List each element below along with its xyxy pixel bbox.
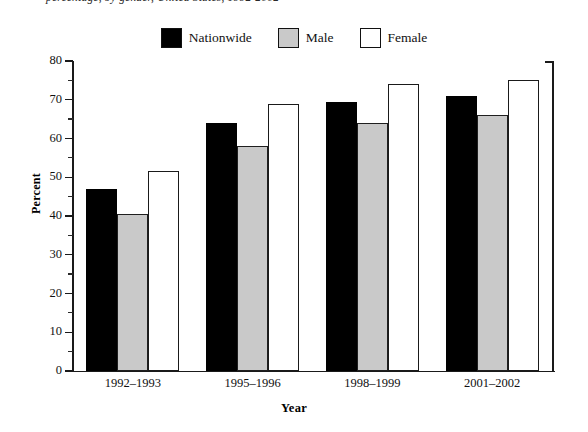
bar-female-0 (148, 171, 179, 371)
x-tick-label: 1992–1993 (73, 376, 193, 391)
bar-female-1 (268, 104, 299, 371)
y-tick-minor (68, 80, 73, 81)
y-tick-label: 50 (28, 169, 62, 183)
y-tick-minor (68, 157, 73, 158)
bar-nationwide-1 (206, 123, 237, 371)
y-tick-label: 70 (28, 92, 62, 106)
y-tick-minor (68, 312, 73, 313)
top-right-frame-segment (545, 61, 554, 63)
y-tick-label: 0 (28, 363, 62, 377)
y-tick-label: 40 (28, 208, 62, 222)
right-frame-line (552, 61, 554, 372)
bar-male-3 (477, 115, 508, 371)
x-tick-label: 2001–2002 (432, 376, 552, 391)
bar-nationwide-0 (86, 189, 117, 371)
bar-nationwide-3 (446, 96, 477, 371)
y-tick-major (65, 60, 73, 61)
bar-female-3 (508, 80, 539, 371)
y-tick-label-text: 40 (32, 208, 62, 223)
y-tick-label-text: 10 (32, 324, 62, 339)
y-tick-major (65, 293, 73, 294)
y-tick-label: 30 (28, 247, 62, 261)
y-tick-label-text: 70 (32, 92, 62, 107)
y-tick-label-text: 80 (32, 53, 62, 68)
y-tick-label-text: 50 (32, 169, 62, 184)
y-tick-major (65, 254, 73, 255)
y-tick-minor (68, 196, 73, 197)
chart-plot-area: Percent Year 01020304050607080 1992–1993… (0, 0, 588, 432)
x-tick-label: 1995–1996 (193, 376, 313, 391)
y-tick-label-text: 30 (32, 247, 62, 262)
bar-male-0 (117, 214, 148, 371)
y-tick-label-text: 20 (32, 286, 62, 301)
x-axis-label: Year (0, 401, 588, 416)
y-tick-label: 60 (28, 131, 62, 145)
y-tick-label: 80 (28, 53, 62, 67)
y-tick-major (65, 332, 73, 333)
y-tick-label-text: 0 (32, 363, 62, 378)
bar-male-2 (357, 123, 388, 371)
y-tick-major (65, 370, 73, 371)
bar-female-2 (388, 84, 419, 371)
y-tick-major (65, 177, 73, 178)
y-tick-label: 20 (28, 286, 62, 300)
y-tick-minor (68, 118, 73, 119)
x-tick-label: 1998–1999 (312, 376, 432, 391)
y-tick-minor (68, 235, 73, 236)
y-tick-label-text: 60 (32, 131, 62, 146)
y-tick-label: 10 (28, 324, 62, 338)
y-tick-minor (68, 273, 73, 274)
y-tick-major (65, 215, 73, 216)
bar-male-1 (237, 146, 268, 371)
bar-nationwide-2 (326, 102, 357, 371)
y-tick-major (65, 99, 73, 100)
y-tick-major (65, 138, 73, 139)
y-tick-minor (68, 351, 73, 352)
